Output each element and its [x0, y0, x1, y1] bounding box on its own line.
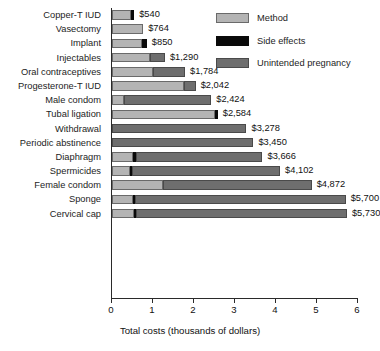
bar-value-label: $2,042 [201, 80, 229, 90]
stacked-bar [112, 10, 134, 20]
y-axis-category-label: Sponge [0, 192, 106, 206]
bar-row: $3,666 [112, 150, 357, 164]
bar-row: $4,102 [112, 164, 357, 178]
bar-segment-method [112, 209, 134, 219]
legend-swatch [216, 58, 249, 68]
y-axis-category-label: Diaphragm [0, 150, 106, 164]
bar-segment-method [112, 180, 163, 190]
x-axis-tick-label: 2 [190, 304, 195, 315]
y-axis-category-label: Withdrawal [0, 122, 106, 136]
y-axis-category-label: Progesterone-T IUD [0, 79, 106, 93]
y-axis-category-label: Female condom [0, 178, 106, 192]
legend-swatch [216, 13, 249, 23]
legend-label: Side effects [257, 36, 305, 46]
bar-segment-unintended-pregnancy [124, 95, 211, 105]
bar-row: $2,042 [112, 79, 357, 93]
x-axis-tick-label: 5 [313, 304, 318, 315]
x-axis-tick-label: 6 [354, 304, 359, 315]
y-axis-category-labels: Copper-T IUDVasectomyImplantInjectablesO… [0, 8, 106, 221]
x-axis-tick [152, 298, 153, 303]
bar-row: $5,700 [112, 192, 357, 206]
y-axis-category-label: Tubal ligation [0, 107, 106, 121]
bar-row: $3,278 [112, 122, 357, 136]
stacked-bar [112, 24, 143, 34]
bar-segment-unintended-pregnancy [184, 81, 196, 91]
y-axis-category-label: Vasectomy [0, 22, 106, 36]
y-axis-category-label: Injectables [0, 51, 106, 65]
bar-segment-unintended-pregnancy [150, 53, 165, 63]
bar-segment-method [112, 95, 124, 105]
x-axis-tick [275, 298, 276, 303]
bar-row: $3,450 [112, 136, 357, 150]
bar-segment-method [112, 53, 150, 63]
bar-row: $2,424 [112, 93, 357, 107]
stacked-bar [112, 95, 211, 105]
legend-item-side-effects: Side effects [216, 34, 351, 48]
bar-row: $4,872 [112, 178, 357, 192]
bar-value-label: $3,450 [258, 137, 286, 147]
cost-comparison-bar-chart: Copper-T IUDVasectomyImplantInjectablesO… [0, 0, 380, 351]
bar-value-label: $5,730 [352, 208, 380, 218]
legend-item-method: Method [216, 11, 351, 25]
x-axis-tick [357, 298, 358, 303]
x-axis-tick-label: 0 [108, 304, 113, 315]
bar-row: $5,730 [112, 207, 357, 221]
stacked-bar [112, 152, 262, 162]
bar-segment-method [112, 10, 131, 20]
bar-segment-unintended-pregnancy [112, 124, 246, 134]
bar-value-label: $1,290 [170, 52, 198, 62]
y-axis-category-label: Oral contraceptives [0, 65, 106, 79]
x-axis-tick [193, 298, 194, 303]
x-axis-tick-label: 4 [272, 304, 277, 315]
chart-legend: MethodSide effectsUnintended pregnancy [216, 11, 351, 79]
bar-segment-method [112, 24, 143, 34]
x-axis-tick-label: 1 [149, 304, 154, 315]
bar-segment-unintended-pregnancy [135, 195, 346, 205]
bar-value-label: $4,872 [317, 179, 345, 189]
legend-label: Method [257, 13, 288, 23]
bar-segment-unintended-pregnancy [132, 166, 280, 176]
bar-segment-unintended-pregnancy [112, 138, 253, 148]
bar-value-label: $3,278 [251, 123, 279, 133]
stacked-bar [112, 81, 196, 91]
bar-value-label: $1,784 [190, 66, 218, 76]
legend-item-unintended-pregnancy: Unintended pregnancy [216, 56, 351, 70]
bar-segment-method [112, 81, 184, 91]
bar-segment-unintended-pregnancy [136, 152, 263, 162]
bar-segment-unintended-pregnancy [136, 209, 347, 219]
stacked-bar [112, 110, 218, 120]
bar-segment-side-effects [142, 39, 147, 49]
stacked-bar [112, 124, 246, 134]
bar-segment-method [112, 166, 130, 176]
stacked-bar [112, 180, 312, 190]
y-axis-category-label: Copper-T IUD [0, 8, 106, 22]
x-axis-title: Total costs (thousands of dollars) [0, 325, 380, 336]
stacked-bar [112, 209, 347, 219]
y-axis-category-label: Spermicides [0, 164, 106, 178]
bar-value-label: $850 [152, 37, 173, 47]
bar-value-label: $2,584 [223, 108, 251, 118]
bar-value-label: $4,102 [285, 165, 313, 175]
bar-segment-unintended-pregnancy [153, 67, 185, 77]
bar-segment-method [112, 67, 153, 77]
bar-value-label: $764 [148, 23, 169, 33]
y-axis-category-label: Male condom [0, 93, 106, 107]
stacked-bar [112, 166, 280, 176]
bar-row: $2,584 [112, 107, 357, 121]
bar-value-label: $540 [139, 9, 160, 19]
stacked-bar [112, 67, 185, 77]
bar-segment-method [112, 152, 133, 162]
x-axis-ticks: 0123456 [111, 298, 358, 318]
legend-label: Unintended pregnancy [257, 58, 351, 68]
x-axis-tick-label: 3 [231, 304, 236, 315]
bar-value-label: $3,666 [267, 151, 295, 161]
bar-segment-method [112, 110, 215, 120]
bar-value-label: $2,424 [216, 94, 244, 104]
bar-segment-method [112, 195, 133, 205]
y-axis-category-label: Cervical cap [0, 207, 106, 221]
stacked-bar [112, 39, 147, 49]
x-axis-tick [234, 298, 235, 303]
bar-value-label: $5,700 [351, 193, 379, 203]
y-axis-category-label: Implant [0, 36, 106, 50]
bar-segment-unintended-pregnancy [163, 180, 311, 190]
